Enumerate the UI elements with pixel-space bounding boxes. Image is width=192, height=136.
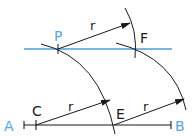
label-radius-c: r — [68, 99, 74, 114]
label-e: E — [116, 106, 125, 122]
parallel-line-construction-diagram: A B C E P F r r r — [0, 0, 192, 136]
label-radius-p: r — [90, 18, 96, 33]
arc-through-p-and-e — [41, 44, 115, 134]
arc-at-f — [125, 8, 136, 58]
label-p: P — [54, 28, 62, 44]
label-radius-e: r — [143, 99, 149, 114]
label-b: B — [175, 118, 185, 134]
arc-through-f — [116, 43, 186, 110]
label-f: F — [140, 30, 148, 46]
label-c: C — [32, 103, 42, 119]
label-a: A — [4, 118, 14, 134]
